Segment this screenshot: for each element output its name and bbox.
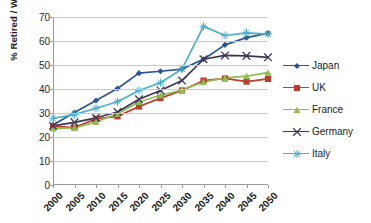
legend-swatch-japan xyxy=(283,59,309,71)
data-point-marker-asterisk xyxy=(200,22,208,30)
legend-label: UK xyxy=(312,82,326,93)
y-tick-label: 70 xyxy=(26,12,50,23)
legend-marker-diamond-icon xyxy=(292,61,302,71)
y-tick-label: 10 xyxy=(26,156,50,167)
legend-item-japan[interactable]: Japan xyxy=(283,58,339,72)
y-tick-mark xyxy=(50,41,53,42)
gridline xyxy=(53,41,268,42)
x-tick-label: 2045 xyxy=(231,190,259,218)
y-tick-label: 30 xyxy=(26,108,50,119)
data-point-marker-x xyxy=(178,77,186,85)
legend-swatch-germany xyxy=(283,125,309,137)
x-tick-label: 2040 xyxy=(209,190,237,218)
legend-marker-x-icon xyxy=(292,127,302,137)
x-tick-label: 2030 xyxy=(166,190,194,218)
x-tick-label: 2050 xyxy=(252,190,280,218)
data-point-marker-asterisk xyxy=(92,104,100,112)
x-axis-tick-labels: 2000200520102015202020252030203520402045… xyxy=(53,186,293,223)
y-tick-mark xyxy=(50,137,53,138)
x-tick-label: 2025 xyxy=(145,190,173,218)
legend-item-germany[interactable]: Germany xyxy=(283,124,353,138)
legend-label: Germany xyxy=(312,126,353,137)
legend-item-uk[interactable]: UK xyxy=(283,80,326,94)
plot-area xyxy=(53,17,268,185)
data-point-marker-diamond xyxy=(157,68,163,74)
data-point-marker-triangle xyxy=(294,107,301,114)
gridline xyxy=(53,89,268,90)
data-point-marker-x xyxy=(293,128,301,136)
x-tick-label: 2020 xyxy=(123,190,151,218)
legend-swatch-france xyxy=(283,103,309,115)
gridline xyxy=(53,161,268,162)
data-point-marker-asterisk xyxy=(243,29,251,37)
legend-marker-square-icon xyxy=(292,83,302,93)
y-tick-label: 20 xyxy=(26,132,50,143)
y-tick-label: 50 xyxy=(26,60,50,71)
y-tick-mark xyxy=(50,161,53,162)
data-point-marker-asterisk xyxy=(157,79,165,87)
series-layer xyxy=(53,17,268,185)
data-point-marker-asterisk xyxy=(114,98,122,106)
y-tick-label: 60 xyxy=(26,36,50,47)
y-tick-mark xyxy=(50,89,53,90)
data-point-marker-asterisk xyxy=(221,31,229,39)
data-point-marker-square xyxy=(243,78,249,84)
data-point-marker-asterisk xyxy=(49,114,57,122)
x-tick-label: 2015 xyxy=(102,190,130,218)
legend-label: France xyxy=(312,104,343,115)
data-point-marker-square xyxy=(294,85,300,91)
x-tick-label: 2005 xyxy=(59,190,87,218)
line-chart: % Retired / Workforce 010203040506070 20… xyxy=(0,0,371,223)
y-tick-mark xyxy=(50,65,53,66)
data-point-marker-square xyxy=(265,76,271,82)
x-tick-label: 2035 xyxy=(188,190,216,218)
legend-label: Japan xyxy=(312,60,339,71)
gridline xyxy=(53,65,268,66)
data-point-marker-asterisk xyxy=(71,111,79,119)
data-point-marker-asterisk xyxy=(264,30,272,38)
y-tick-label: 40 xyxy=(26,84,50,95)
x-tick-label: 2010 xyxy=(80,190,108,218)
gridline xyxy=(53,137,268,138)
legend-swatch-italy xyxy=(283,147,309,159)
y-tick-mark xyxy=(50,17,53,18)
data-point-marker-asterisk xyxy=(178,65,186,73)
gridline xyxy=(53,113,268,114)
chart-legend: JapanUKFranceGermanyItaly xyxy=(283,58,371,170)
legend-swatch-uk xyxy=(283,81,309,93)
legend-label: Italy xyxy=(312,148,330,159)
y-tick-label: 0 xyxy=(26,180,50,191)
data-point-marker-diamond xyxy=(294,63,300,69)
legend-marker-asterisk-icon xyxy=(292,149,302,159)
y-tick-mark xyxy=(50,113,53,114)
legend-item-france[interactable]: France xyxy=(283,102,343,116)
legend-marker-triangle-icon xyxy=(292,105,302,115)
data-point-marker-asterisk xyxy=(293,150,301,158)
data-point-marker-asterisk xyxy=(135,86,143,94)
y-axis-tick-labels: 010203040506070 xyxy=(26,0,50,223)
y-axis-title: % Retired / Workforce xyxy=(2,0,24,122)
gridline xyxy=(53,17,268,18)
legend-item-italy[interactable]: Italy xyxy=(283,146,330,160)
